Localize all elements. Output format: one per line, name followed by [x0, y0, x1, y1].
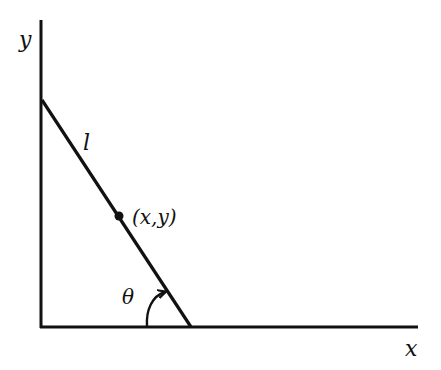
point-marker [115, 212, 124, 221]
y-axis-label: y [18, 27, 32, 52]
angle-label: θ [122, 285, 134, 309]
diagram-canvas: y x l (x,y) θ [0, 0, 441, 370]
point-label: (x,y) [132, 205, 177, 229]
segment-label: l [83, 130, 90, 155]
angle-arc-arrow-icon [147, 292, 165, 326]
x-axis-label: x [405, 336, 418, 361]
